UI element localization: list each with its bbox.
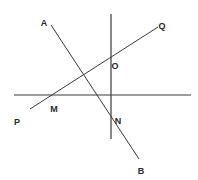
- label-p: P: [14, 118, 20, 127]
- label-o: O: [111, 62, 118, 71]
- label-m: M: [50, 105, 58, 114]
- label-n: N: [115, 117, 122, 126]
- label-b: B: [138, 167, 145, 176]
- label-a: A: [41, 19, 48, 28]
- geometry-diagram: [0, 0, 198, 180]
- line-pq: [30, 27, 158, 109]
- label-q: Q: [158, 22, 165, 31]
- line-ab: [51, 25, 139, 159]
